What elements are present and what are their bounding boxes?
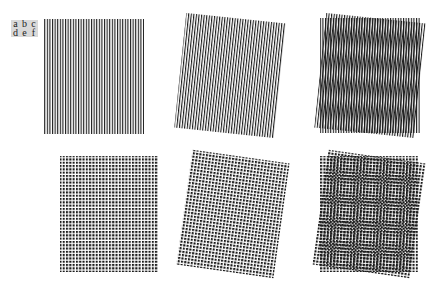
panel-d-dot-grid — [60, 156, 158, 272]
panel-a-vertical-lines — [44, 19, 144, 134]
panel-f-dot-moire-overlay — [312, 150, 425, 279]
panel-c-line-moire-overlay — [314, 13, 425, 138]
panel-e-rotated-dot-grid — [176, 150, 289, 279]
panel-b-rotated-lines — [174, 13, 285, 138]
moire-figure — [0, 0, 435, 288]
